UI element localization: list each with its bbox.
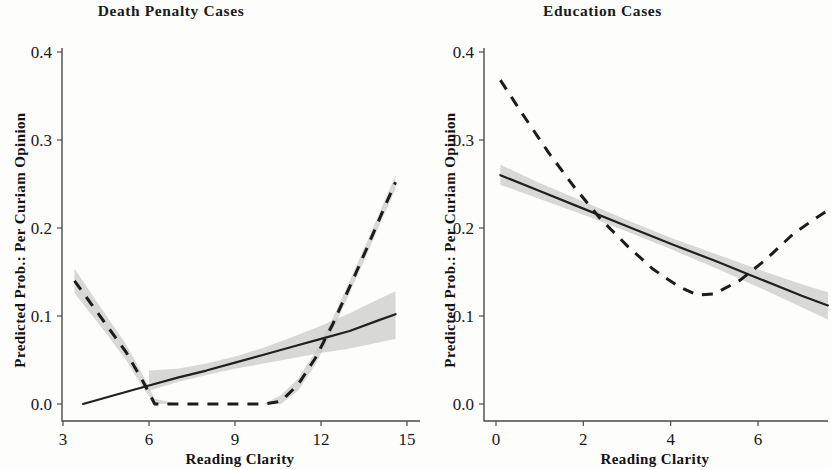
y-tick-label: 0.4	[453, 43, 475, 62]
x-tick-label: 0	[492, 430, 501, 449]
y-tick-label: 0.0	[453, 395, 474, 414]
x-tick-label: 4	[666, 430, 675, 449]
plot-area-education: 0.00.10.20.30.4 0246 Reading Clarity Pre…	[430, 0, 831, 470]
y-tick-label: 0.3	[31, 131, 52, 150]
x-axis-title-right: Reading Clarity	[601, 451, 710, 467]
y-tick-labels-left: 0.00.10.20.30.4	[31, 43, 53, 414]
x-axis-title-left: Reading Clarity	[186, 451, 295, 467]
y-axis-title-right: Predicted Prob.: Per Curiam Opinion	[442, 112, 458, 367]
x-tick-label: 12	[313, 430, 330, 449]
x-tick-label: 3	[59, 430, 68, 449]
x-tick-label: 2	[579, 430, 588, 449]
y-tick-label: 0.4	[31, 43, 53, 62]
y-tick-label: 0.0	[31, 395, 52, 414]
axis-ticks-left	[57, 52, 407, 426]
panel-education: Education Cases 0.00.10.20.30.4 0246 Rea…	[430, 0, 831, 470]
x-tick-label: 6	[145, 430, 154, 449]
y-tick-label: 0.2	[31, 219, 52, 238]
x-tick-label: 9	[231, 430, 240, 449]
x-tick-label: 6	[754, 430, 763, 449]
x-tick-labels-left: 3691215	[59, 430, 416, 449]
x-tick-labels-right: 0246	[492, 430, 763, 449]
x-tick-label: 15	[399, 430, 416, 449]
figure-panel-pair: Death Penalty Cases 0.00.10.20.30.4 3691…	[0, 0, 831, 470]
dashed-fit-line-left	[74, 182, 395, 404]
panel-death-penalty: Death Penalty Cases 0.00.10.20.30.4 3691…	[0, 0, 430, 470]
axis-ticks-right	[479, 52, 758, 426]
solid-fit-line-right	[500, 175, 828, 305]
y-tick-label: 0.1	[31, 307, 52, 326]
y-axis-title-left: Predicted Prob.: Per Curiam Opinion	[12, 112, 28, 367]
plot-area-death-penalty: 0.00.10.20.30.4 3691215 Reading Clarity …	[0, 0, 430, 470]
